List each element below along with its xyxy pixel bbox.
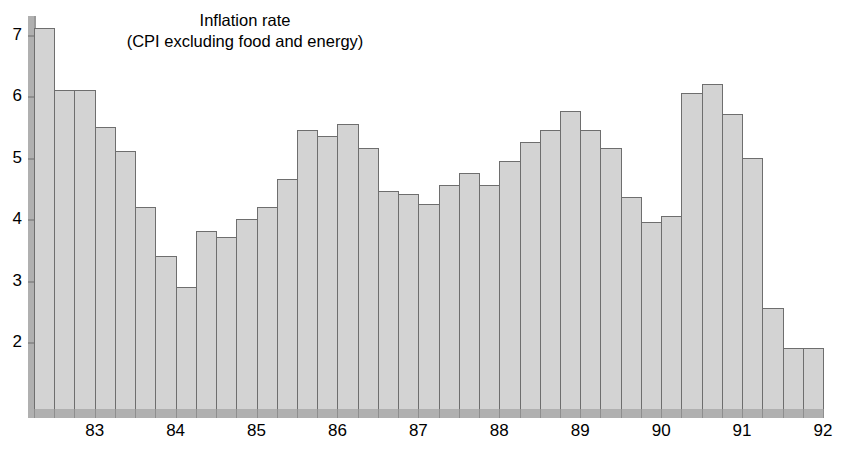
bar [236,219,257,409]
x-tick [641,409,642,418]
x-tick [783,409,784,418]
y-tick-label: 3 [0,272,22,289]
x-tick-label: 90 [641,422,681,440]
x-tick-label: 92 [803,422,843,440]
x-tick [459,409,460,418]
x-tick [236,409,237,418]
bar [196,231,217,409]
x-tick [560,409,561,418]
x-tick [722,409,723,418]
bar [418,204,439,409]
x-tick [54,409,55,418]
bar [600,148,621,409]
inflation-bar-chart: Inflation rate (CPI excluding food and e… [0,0,853,453]
bar [135,207,156,409]
x-tick [823,409,824,418]
x-tick [540,409,541,418]
x-tick [499,409,500,418]
bar [155,256,176,409]
bar [560,111,581,409]
x-tick [742,409,743,418]
x-tick [418,409,419,418]
bar [641,222,662,409]
x-axis [28,409,823,418]
x-tick [681,409,682,418]
x-tick [803,409,804,418]
bar [722,114,743,409]
bar [317,136,338,409]
bar [176,287,197,409]
x-tick [176,409,177,418]
x-tick [95,409,96,418]
x-tick [135,409,136,418]
x-tick [398,409,399,418]
x-tick [216,409,217,418]
bar [378,191,399,409]
x-tick-label: 86 [317,422,357,440]
y-tick-label: 7 [0,26,22,43]
x-tick [439,409,440,418]
x-tick [762,409,763,418]
bar [459,173,480,409]
x-tick [297,409,298,418]
x-tick [479,409,480,418]
x-tick-label: 85 [237,422,277,440]
x-tick [115,409,116,418]
bar [297,130,318,409]
x-tick [155,409,156,418]
bar [54,90,75,409]
x-tick [257,409,258,418]
bar [499,161,520,409]
x-tick [580,409,581,418]
bar [702,84,723,409]
bar [216,237,237,409]
y-tick-label: 4 [0,210,22,227]
bar [74,90,95,409]
x-tick [337,409,338,418]
plot-area [34,0,823,409]
bar [358,148,379,409]
x-tick [621,409,622,418]
bar [520,142,541,409]
x-tick-label: 83 [75,422,115,440]
bar [580,130,601,409]
bar [479,185,500,409]
x-tick [277,409,278,418]
bar [783,348,804,409]
x-tick [196,409,197,418]
x-tick [600,409,601,418]
x-tick [34,409,35,418]
bar [277,179,298,409]
x-tick [520,409,521,418]
bar [95,127,116,409]
bar [398,194,419,409]
bar [540,130,561,409]
x-tick [378,409,379,418]
bar [742,158,763,410]
x-tick [702,409,703,418]
x-tick-label: 89 [560,422,600,440]
bar [115,151,136,409]
x-tick [317,409,318,418]
bar [681,93,702,409]
bar [439,185,460,409]
bar [34,28,55,409]
y-tick-label: 5 [0,149,22,166]
x-tick [74,409,75,418]
x-tick-label: 84 [156,422,196,440]
bar [661,216,682,409]
bar [337,124,358,409]
x-tick [661,409,662,418]
bar [621,197,642,409]
x-tick-label: 87 [398,422,438,440]
bar [762,308,783,409]
x-tick-label: 91 [722,422,762,440]
x-tick-label: 88 [479,422,519,440]
y-tick-label: 6 [0,87,22,104]
bar [257,207,278,409]
x-tick [358,409,359,418]
y-tick-label: 2 [0,333,22,350]
bar [803,348,824,409]
